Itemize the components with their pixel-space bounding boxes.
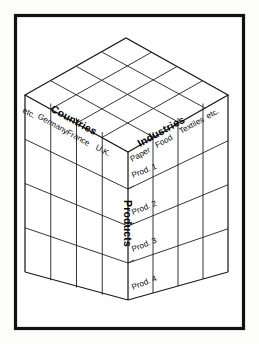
data-cube-figure: etc. Germany France U.K. Countries Paper… — [0, 0, 259, 344]
cube-diagram-svg: etc. Germany France U.K. Countries Paper… — [0, 0, 259, 344]
products-axis-title: Products — [122, 200, 133, 247]
